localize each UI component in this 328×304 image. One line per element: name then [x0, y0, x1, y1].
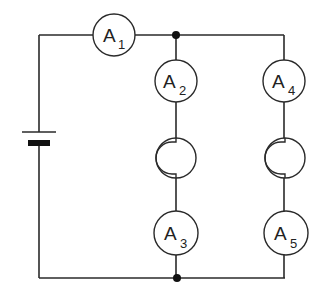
ammeter-a3-letter: A: [164, 223, 177, 244]
ammeter-a2-circle: [155, 60, 197, 102]
junction-bottom-dot: [173, 274, 181, 282]
battery-negative-plate: [28, 140, 50, 146]
ammeter-a1-letter: A: [103, 25, 116, 46]
lamp-right: [265, 138, 305, 178]
ammeter-a1-subscript: 1: [118, 37, 125, 52]
ammeter-a2-subscript: 2: [179, 83, 186, 98]
ammeter-a4: A 4: [263, 60, 305, 102]
circuit-diagram: A 1 A 2 A 4 A 3 A 5: [0, 0, 328, 304]
ammeter-a2: A 2: [155, 60, 197, 102]
lamp-right-bulb: [265, 138, 305, 178]
ammeter-a3: A 3: [154, 211, 198, 255]
ammeter-a4-subscript: 4: [288, 83, 295, 98]
lamp-left-bulb: [156, 138, 196, 178]
ammeter-a2-letter: A: [163, 71, 176, 92]
ammeter-a5: A 5: [264, 211, 308, 255]
ammeter-a5-subscript: 5: [290, 236, 297, 251]
junction-top-dot: [172, 31, 180, 39]
ammeter-a4-letter: A: [272, 71, 285, 92]
ammeter-a5-letter: A: [274, 223, 287, 244]
ammeter-a1: A 1: [93, 14, 135, 56]
battery: [22, 132, 56, 146]
ammeter-a3-subscript: 3: [180, 236, 187, 251]
lamp-left: [156, 138, 196, 178]
